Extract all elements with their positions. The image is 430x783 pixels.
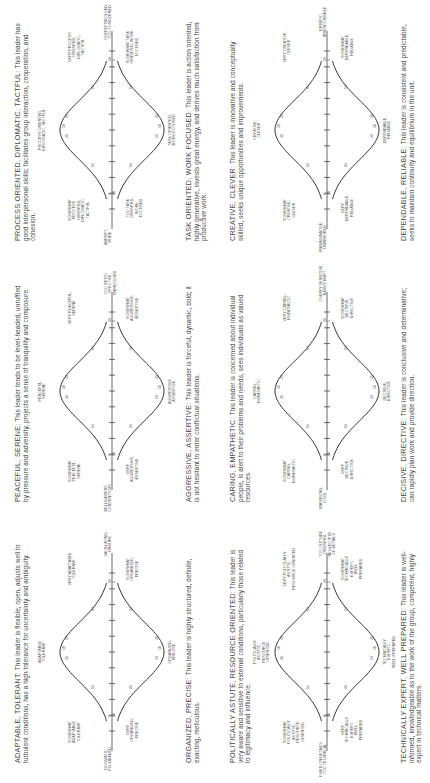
percentile-mark: 1 — [112, 581, 116, 583]
trait-panel-creative: CREATIVE, CLEVER: This leader is innovat… — [215, 0, 430, 261]
percentile-mark: 31 — [65, 134, 69, 138]
bottom-right-label: SOMEWHAT AGGRESSIVE, ASSERTIVE — [126, 284, 139, 332]
percentile-mark: 69 — [280, 636, 284, 640]
percentile-mark: 31 — [155, 114, 159, 118]
top-peak-label: POLITICALLY ASTUTE, RESOURCE ORIENTED — [253, 622, 271, 682]
top-peak-label: PROCESS ORIENTED, DIPLOMATIC, TACTFUL — [38, 100, 47, 160]
percentile-mark: 31 — [280, 656, 284, 660]
percentile-mark: 1 — [112, 59, 116, 61]
bottom-trait-description: TASK ORIENTED, WORK FOCUSED: This leader… — [185, 21, 208, 241]
percentile-mark: 16 — [306, 424, 310, 428]
percentile-mark: 69 — [280, 114, 284, 118]
trait-panel-political: POLITICALLY ASTUTE, RESOURCE ORIENTED: T… — [215, 522, 430, 783]
percentile-mark: 50 — [373, 385, 377, 389]
bottom-left-label: VERY DEPENDABLE, RELIABLE — [341, 189, 354, 227]
trait-panel-process: PROCESS ORIENTED, DIPLOMATIC, TACTFUL: T… — [0, 0, 215, 261]
trait-panel-caring: CARING, EMPATHETIC: This leader is conce… — [215, 261, 430, 522]
trait-panel-peaceful: PEACEFUL, SERENE: This leader tends to b… — [0, 261, 215, 522]
percentile-mark: 50 — [62, 124, 66, 128]
left-pole-label: ABRUPT, RUDE — [104, 217, 113, 257]
percentile-mark: 84 — [91, 346, 95, 350]
percentile-mark: 50 — [158, 385, 162, 389]
bottom-left-label: VERY DECISIVE, DIRECTIVE — [341, 450, 354, 488]
left-pole-label: DOGMATIC, PIG-HEADED — [104, 739, 113, 779]
percentile-mark: 84 — [306, 607, 310, 611]
top-left-label: SOMEWHAT CREATIVE, CLEVER — [283, 191, 296, 229]
percentile-mark: 69 — [155, 395, 159, 399]
percentile-mark: 99 — [327, 713, 331, 717]
top-left-label: SOMEWHAT PEACEFUL, SERENE — [68, 452, 81, 490]
bottom-trait-description: DECISIVE, DIRECTIVE: This leader is conc… — [400, 282, 415, 502]
percentile-mark: 50 — [62, 385, 66, 389]
percentile-mark: 99 — [327, 191, 331, 195]
percentile-mark: 84 — [344, 424, 348, 428]
percentile-mark: 1 — [327, 320, 331, 322]
percentile-mark: 50 — [277, 124, 281, 128]
percentile-mark: 84 — [344, 163, 348, 167]
percentile-mark: 16 — [344, 346, 348, 350]
left-pole-label: BELLIGERENT, CONTENTIOUS — [104, 478, 113, 518]
percentile-mark: 84 — [306, 346, 310, 350]
right-pole-label: TOO INTRO- SPECTIVE, UNINVOLVED — [104, 258, 117, 308]
bottom-peak-label: ORGANIZED, PRECISE — [168, 622, 177, 682]
top-left-label: SOMEWHAT PROCESS ORIENTED, DIPLOMATIC, T… — [68, 191, 90, 229]
trait-panel-adaptable: ADAPTABLE, TOLERANT: This leader is flex… — [0, 522, 215, 783]
bottom-peak-label: DECISIVE, DIRECTIVE — [383, 361, 392, 421]
percentile-mark: 31 — [280, 134, 284, 138]
percentile-mark: 50 — [158, 646, 162, 650]
percentile-mark: 50 — [277, 385, 281, 389]
bottom-right-label: SOMEWHAT TECHNICALLY EXPERT, WELL PREPAR… — [341, 545, 363, 593]
right-pole-label: TOO OUTSIDE ORIENTED, NEGLECTFUL OF DETA… — [319, 519, 337, 569]
percentile-mark: 84 — [91, 85, 95, 89]
percentile-mark: 84 — [129, 685, 133, 689]
percentile-mark: 69 — [65, 114, 69, 118]
top-left-label: SOMEWHAT POLITICALLY ASTUTE, RESOURCE OR… — [283, 713, 305, 751]
percentile-mark: 16 — [91, 685, 95, 689]
percentile-mark: 69 — [65, 375, 69, 379]
percentile-mark: 84 — [344, 685, 348, 689]
bottom-right-label: SOMEWHAT DECISIVE, DIRECTIVE — [341, 284, 354, 332]
percentile-mark: 16 — [91, 424, 95, 428]
top-right-label: VERY PROCESS ORIENTED, DIPLOMATIC, TACTF… — [68, 23, 86, 71]
percentile-mark: 84 — [129, 424, 133, 428]
percentile-mark: 31 — [65, 656, 69, 660]
bottom-left-label: TOO TASK ORIENTED, WORK FOCUSED — [126, 189, 144, 227]
percentile-mark: 50 — [62, 646, 66, 650]
right-pole-label: ERRATIC, IRRESPONSIBLE — [319, 0, 328, 47]
right-pole-label: OVERLY SENSITIVE, EASILY HURT — [319, 258, 328, 308]
percentile-mark: 69 — [155, 656, 159, 660]
top-left-label: SOMEWHAT CARING, EMPATHETIC — [283, 452, 296, 490]
percentile-mark: 69 — [155, 134, 159, 138]
top-right-label: VERY POLITICALLY ASTUTE, RESOURCE ORIENT… — [283, 545, 296, 593]
percentile-mark: 1 — [112, 320, 116, 322]
bottom-right-label: SOMEWHAT DEPENDABLE, RELIABLE — [341, 23, 354, 71]
percentile-mark: 16 — [129, 85, 133, 89]
percentile-mark: 50 — [277, 646, 281, 650]
top-right-label: VERY PEACEFUL, SERENE — [68, 284, 77, 332]
percentile-mark: 69 — [65, 636, 69, 640]
percentile-mark: 69 — [370, 395, 374, 399]
percentile-mark: 69 — [370, 656, 374, 660]
top-peak-label: CREATIVE, CLEVER — [253, 100, 262, 160]
bottom-left-label: VERY AGGRESSIVE, ASSERTIVE — [126, 450, 139, 488]
bottom-right-label: SOMEWHAT ORGANIZED, PRECISE — [126, 545, 139, 593]
bottom-peak-label: DEPENDABLE, RELIABLE — [383, 100, 392, 160]
rotated-document-page: ADAPTABLE, TOLERANT: This leader is flex… — [0, 0, 430, 783]
percentile-mark: 16 — [306, 163, 310, 167]
right-pole-label: VACILLATING, UNSURE — [104, 519, 113, 569]
left-pole-label: FIXED ON DETAILS, TOO TECHNICAL — [319, 739, 328, 779]
left-pole-label: UNFEELING, COLD — [319, 478, 328, 518]
percentile-mark: 50 — [158, 124, 162, 128]
percentile-mark: 84 — [129, 163, 133, 167]
top-peak-label: PEACEFUL, SERENE — [38, 361, 47, 421]
percentile-mark: 16 — [344, 607, 348, 611]
bottom-peak-label: TECHNICALLY EXPERT, WELL-PREPARED — [383, 622, 396, 682]
bottom-trait-description: TECHNICALLY EXPERT, WELL PREPARED: This … — [400, 543, 423, 763]
percentile-mark: 50 — [373, 124, 377, 128]
percentile-mark: 16 — [306, 685, 310, 689]
percentile-mark: 99 — [112, 713, 116, 717]
bottom-right-label: SOMEWHAT TASK ORIENTED, WORK FOCUSED — [126, 23, 139, 71]
percentile-mark: 69 — [370, 134, 374, 138]
bottom-peak-label: AGGRESSIVE, ASSERTIVE — [168, 361, 177, 421]
bottom-peak-label: TASK ORIENTED, WORK FOCUSED — [168, 100, 177, 160]
